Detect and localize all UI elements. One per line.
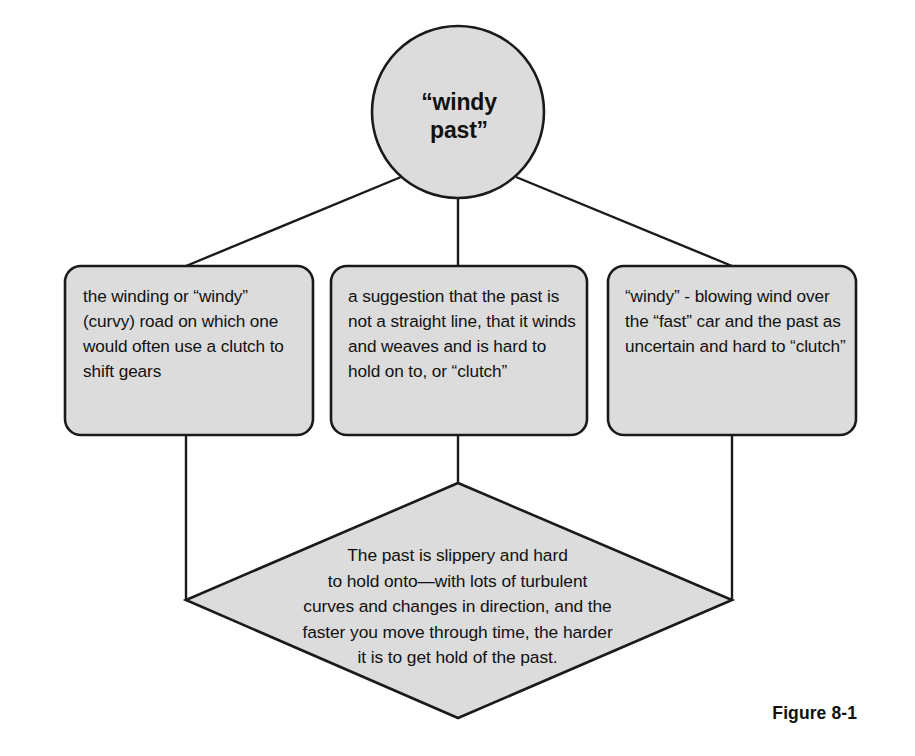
- diagram-canvas: [0, 0, 915, 756]
- connector-circle-to-right-box: [516, 177, 732, 266]
- figure-diagram: “windy past” the winding or “windy” (cur…: [0, 0, 915, 756]
- branch-box-middle: [331, 266, 587, 435]
- branch-box-left: [65, 266, 313, 435]
- connector-circle-to-left-box: [186, 177, 401, 266]
- central-node-circle: [372, 26, 544, 198]
- conclusion-diamond: [186, 483, 732, 718]
- branch-box-right: [608, 266, 856, 435]
